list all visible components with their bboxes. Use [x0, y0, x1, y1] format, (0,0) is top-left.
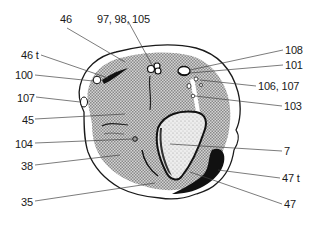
- label-103: 103: [284, 100, 302, 112]
- vessel-107-right: [200, 84, 203, 87]
- label-104: 104: [15, 138, 33, 150]
- label-107-left: 107: [17, 92, 35, 104]
- label-35: 35: [21, 196, 33, 208]
- vessel-group-108-101: [178, 67, 190, 76]
- label-45: 45: [22, 114, 34, 126]
- vessel-106b: [187, 84, 191, 89]
- label-100: 100: [15, 69, 33, 81]
- nerve-104: [133, 137, 138, 142]
- vessel-103: [191, 94, 195, 98]
- vessel-107-left: [81, 97, 88, 107]
- label-38: 38: [21, 160, 33, 172]
- vessel-106: [194, 77, 198, 81]
- label-108: 108: [285, 44, 303, 56]
- label-7: 7: [284, 145, 290, 157]
- label-47t: 47 t: [282, 172, 300, 184]
- label-106-107: 106, 107: [258, 80, 299, 92]
- label-46: 46: [60, 13, 72, 25]
- label-46t: 46 t: [21, 49, 39, 61]
- label-101: 101: [285, 59, 303, 71]
- anatomical-cross-section: [0, 0, 318, 227]
- label-97-98-105: 97, 98, 105: [97, 13, 150, 25]
- vessel-100: [93, 76, 101, 84]
- label-47: 47: [284, 198, 296, 210]
